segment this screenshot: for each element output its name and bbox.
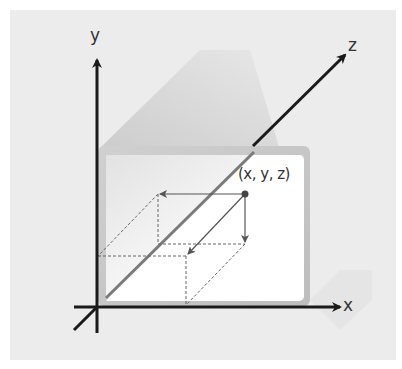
x-axis-label: x — [343, 297, 353, 314]
point-label: (x, y, z) — [238, 167, 290, 182]
z-axis-label: z — [348, 37, 357, 54]
diagram-canvas — [0, 0, 402, 369]
point-marker — [242, 191, 249, 198]
coordinate-diagram: y z x (x, y, z) — [0, 0, 402, 369]
y-axis-label: y — [90, 27, 100, 44]
